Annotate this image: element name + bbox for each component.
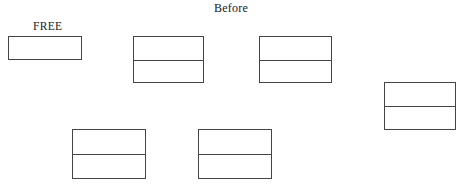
allocated-block-2 [259, 36, 332, 83]
allocated-block-1 [133, 36, 204, 83]
block-divider [260, 60, 331, 61]
allocated-block-5 [198, 129, 272, 179]
diagram-title: Before [0, 1, 462, 16]
block-divider [73, 154, 145, 155]
block-divider [199, 154, 271, 155]
block-divider [385, 106, 455, 107]
free-label: FREE [33, 20, 62, 32]
block-divider [134, 60, 203, 61]
allocated-block-3 [384, 82, 456, 130]
allocated-block-4 [72, 129, 146, 179]
free-block [8, 36, 82, 60]
